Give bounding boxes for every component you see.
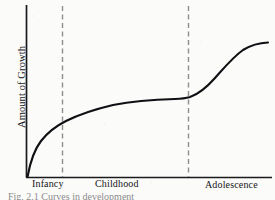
stage-label-adolescence: Adolescence xyxy=(205,179,258,190)
figure-caption: Fig. 2.1 Curves in development xyxy=(8,191,270,200)
growth-curve-chart xyxy=(0,0,275,200)
stage-label-infancy: Infancy xyxy=(32,178,64,189)
stage-label-childhood: Childhood xyxy=(95,178,139,189)
y-axis-label: Amount of Growth xyxy=(16,12,32,162)
growth-curve-path xyxy=(28,43,269,178)
figure-container: Amount of Growth Infancy Childhood Adole… xyxy=(0,0,275,200)
